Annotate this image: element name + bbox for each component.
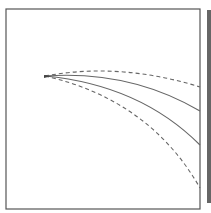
diagram-frame [6,9,200,209]
side-bar [207,10,211,203]
curve-fan-diagram [0,0,211,213]
